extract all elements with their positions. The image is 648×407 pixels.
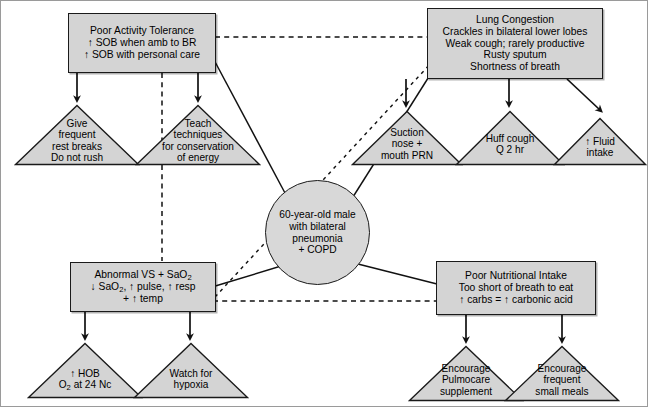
edge-center-to-poor-nutrition	[350, 262, 437, 284]
intervention-give-frequent-rest-breaks[interactable]: Give frequent rest breaks Do not rush	[14, 104, 140, 166]
edge-lc-to-fluid-intake	[567, 79, 600, 110]
intervention-suction-nose-mouth-prn[interactable]: Suction nose + mouth PRN	[351, 110, 463, 166]
concept-map-canvas: Poor Activity Tolerance ↑ SOB when amb t…	[0, 0, 648, 407]
vs-line-3: + ↑ temp	[123, 293, 163, 305]
center-node[interactable]: 60-year-old male with bilateral pneumoni…	[265, 180, 370, 285]
pat-line-2: ↑ SOB when amb to BR	[88, 37, 197, 49]
problem-box-lung-congestion[interactable]: Lung Congestion Crackles in bilateral lo…	[427, 8, 603, 79]
pat-line-3: ↑ SOB with personal care	[84, 49, 200, 61]
vs-line-1: Abnormal VS + SaO2	[94, 269, 191, 281]
intervention-increase-hob-oxygen[interactable]: ↑ HOB O2 at 24 Nc	[27, 342, 143, 399]
pat-line-1: Poor Activity Tolerance	[90, 25, 194, 37]
problem-box-abnormal-vs-sao2[interactable]: Abnormal VS + SaO2 ↓ SaO2, ↑ pulse, ↑ re…	[70, 262, 216, 312]
pni-line-2: Too short of breath to eat	[459, 282, 573, 294]
center-line-4: + COPD	[298, 244, 336, 256]
center-line-1: 60-year-old male	[279, 209, 355, 221]
lc-line-4: Rusty sputum	[484, 49, 547, 61]
center-line-3: pneumonia	[292, 233, 342, 245]
intervention-encourage-frequent-small-meals[interactable]: Encourage frequent small meals	[504, 345, 620, 402]
lc-line-1: Lung Congestion	[476, 14, 554, 26]
lc-line-5: Shortness of breath	[470, 61, 560, 73]
intervention-teach-conservation-of-energy[interactable]: Teach techniques for conservation of ene…	[135, 104, 261, 166]
lc-line-2: Crackles in bilateral lower lobes	[443, 26, 588, 38]
problem-box-poor-activity-tolerance[interactable]: Poor Activity Tolerance ↑ SOB when amb t…	[68, 13, 216, 73]
center-line-2: with bilateral	[289, 221, 346, 233]
lc-line-3: Weak cough; rarely productive	[446, 38, 585, 50]
pni-line-1: Poor Nutritional Intake	[465, 270, 567, 282]
intervention-increase-fluid-intake[interactable]: ↑ Fluid intake	[553, 117, 647, 166]
vs-line-2: ↓ SaO2, ↑ pulse, ↑ resp	[91, 281, 196, 293]
intervention-watch-for-hypoxia[interactable]: Watch for hypoxia	[133, 342, 249, 399]
pni-line-3: ↑ carbs = ↑ carbonic acid	[459, 294, 573, 306]
problem-box-poor-nutritional-intake[interactable]: Poor Nutritional Intake Too short of bre…	[436, 261, 596, 315]
intervention-huff-cough-q2hr[interactable]: Huff cough Q 2 hr	[455, 110, 565, 166]
